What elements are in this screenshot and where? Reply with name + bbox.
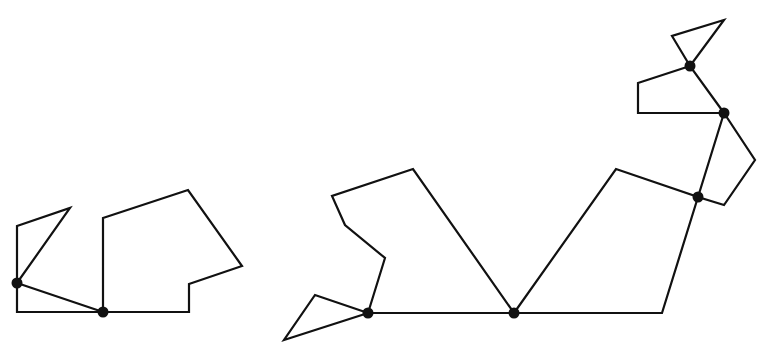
left-triangle-polygon: [17, 208, 70, 283]
left-lower-triangle-polygon: [17, 283, 103, 312]
joint-D-dot: [509, 308, 520, 319]
tail-triangle-polygon: [284, 295, 368, 340]
left-figure: [12, 190, 243, 318]
joint-A-dot: [12, 278, 23, 289]
right-figure: [284, 20, 755, 340]
joint-C-dot: [363, 308, 374, 319]
joint-B-dot: [98, 307, 109, 318]
neck-quadrilateral-polygon: [698, 113, 755, 205]
joint-E-dot: [693, 192, 704, 203]
top-triangle-polygon: [672, 20, 724, 66]
head-quadrilateral-polygon: [638, 66, 724, 113]
joint-F-dot: [719, 108, 730, 119]
joint-G-dot: [685, 61, 696, 72]
body-quadrilateral-polygon: [514, 169, 698, 313]
linkage-diagram: [0, 0, 772, 362]
left-hexagon-polygon: [103, 190, 242, 312]
figures-layer: [12, 20, 756, 340]
body-hexagon-polygon: [332, 169, 514, 313]
